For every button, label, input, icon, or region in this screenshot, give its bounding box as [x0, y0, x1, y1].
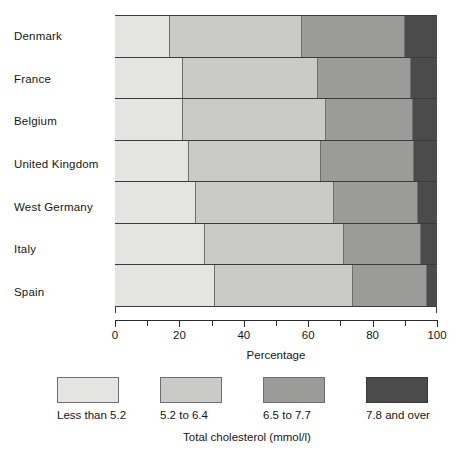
bar-row	[115, 264, 437, 307]
bar-segment	[115, 224, 205, 265]
bar-segment	[421, 224, 437, 265]
bar-row	[115, 140, 437, 183]
category-label-united-kingdom: United Kingdom	[0, 158, 100, 170]
category-axis-labels: DenmarkFranceBelgiumUnited KingdomWest G…	[0, 15, 108, 313]
category-label-spain: Spain	[0, 286, 100, 298]
legend-label: 5.2 to 6.4	[160, 409, 208, 421]
legend: Total cholesterol (mmol/l) Less than 5.2…	[57, 377, 437, 447]
legend-swatch	[366, 377, 428, 403]
legend-item: 5.2 to 6.4	[160, 377, 222, 403]
x-axis-tick	[340, 320, 341, 326]
x-axis-tick	[437, 320, 438, 327]
bar-row	[115, 15, 437, 58]
stacked-bar-chart: DenmarkFranceBelgiumUnited KingdomWest G…	[0, 0, 468, 457]
x-axis-tick-label: 80	[366, 329, 379, 341]
legend-label: 6.5 to 7.7	[263, 409, 311, 421]
bar-segment	[413, 99, 437, 140]
bar-segment	[115, 182, 196, 223]
bar-segment	[405, 16, 437, 57]
x-axis-tick	[373, 320, 374, 327]
category-label-denmark: Denmark	[0, 30, 100, 42]
category-label-france: France	[0, 73, 100, 85]
bar-segment	[427, 265, 437, 306]
bar-segment	[189, 141, 321, 182]
bar-segment	[115, 141, 189, 182]
legend-swatch	[57, 377, 119, 403]
bar-segment	[183, 99, 326, 140]
legend-label: Less than 5.2	[57, 409, 126, 421]
x-axis-tick	[308, 320, 309, 327]
legend-title: Total cholesterol (mmol/l)	[57, 431, 437, 443]
category-label-belgium: Belgium	[0, 115, 100, 127]
category-label-italy: Italy	[0, 243, 100, 255]
legend-item: 6.5 to 7.7	[263, 377, 325, 403]
legend-swatch	[263, 377, 325, 403]
x-axis-tick	[179, 320, 180, 327]
bar-segment	[183, 58, 318, 99]
bar-segment	[205, 224, 343, 265]
bar-segment	[418, 182, 437, 223]
x-axis-tick-label: 100	[427, 329, 446, 341]
x-axis-tick	[405, 320, 406, 326]
x-axis-tick-label: 0	[112, 329, 118, 341]
bar-segment	[115, 265, 215, 306]
x-axis-tick	[212, 320, 213, 326]
legend-label: 7.8 and over	[366, 409, 430, 421]
bar-segment	[318, 58, 411, 99]
category-label-west-germany: West Germany	[0, 201, 100, 213]
bar-segment	[321, 141, 414, 182]
bar-segment	[115, 58, 183, 99]
bar-segment	[215, 265, 353, 306]
x-axis-tick-label: 40	[237, 329, 250, 341]
bar-segment	[414, 141, 437, 182]
x-axis-tick	[115, 320, 116, 327]
bar-segment	[115, 99, 183, 140]
bar-segment	[326, 99, 413, 140]
bar-row	[115, 98, 437, 141]
bar-segment	[334, 182, 418, 223]
x-axis-tick	[276, 320, 277, 326]
bar-row	[115, 57, 437, 100]
x-axis: 020406080100	[115, 320, 437, 321]
legend-item: Less than 5.2	[57, 377, 119, 403]
x-axis-tick	[147, 320, 148, 326]
legend-swatch	[160, 377, 222, 403]
bar-row	[115, 181, 437, 224]
x-axis-tick-label: 20	[173, 329, 186, 341]
bar-segment	[196, 182, 334, 223]
x-axis-tick	[244, 320, 245, 327]
bar-row	[115, 223, 437, 266]
bar-segment	[115, 16, 170, 57]
bar-segment	[344, 224, 421, 265]
legend-item: 7.8 and over	[366, 377, 428, 403]
x-axis-tick-label: 60	[302, 329, 315, 341]
bar-segment	[302, 16, 405, 57]
x-axis-title: Percentage	[115, 349, 437, 361]
bar-segment	[170, 16, 302, 57]
bar-segment	[353, 265, 427, 306]
plot-area	[115, 15, 437, 313]
bar-segment	[411, 58, 437, 99]
